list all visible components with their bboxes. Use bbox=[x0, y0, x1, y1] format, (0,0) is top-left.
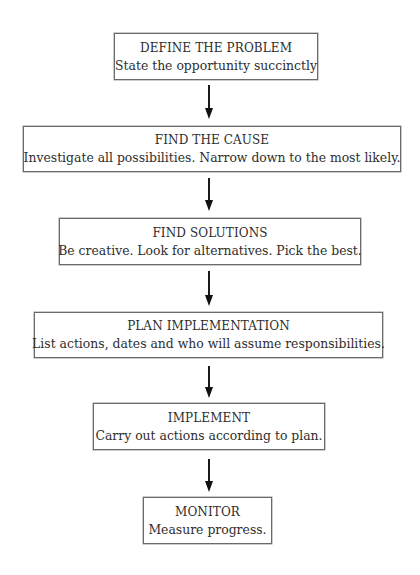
step-monitor: MONITOR Measure progress. bbox=[143, 497, 272, 544]
step-description: Be creative. Look for alternatives. Pick… bbox=[58, 242, 362, 260]
step-title: DEFINE THE PROBLEM bbox=[140, 39, 292, 57]
step-description: Carry out actions according to plan. bbox=[96, 427, 323, 445]
step-description: Investigate all possibilities. Narrow do… bbox=[24, 149, 401, 167]
step-find-the-cause: FIND THE CAUSE Investigate all possibili… bbox=[23, 126, 401, 172]
step-description: State the opportunity succinctly bbox=[115, 57, 317, 75]
step-title: IMPLEMENT bbox=[168, 409, 250, 427]
arrow-down-icon bbox=[204, 271, 214, 306]
step-description: List actions, dates and who will assume … bbox=[32, 335, 385, 353]
step-plan-implementation: PLAN IMPLEMENTATION List actions, dates … bbox=[34, 312, 383, 358]
arrow-down-icon bbox=[204, 85, 214, 119]
arrow-down-icon bbox=[204, 366, 214, 398]
step-title: MONITOR bbox=[175, 503, 240, 521]
step-define-the-problem: DEFINE THE PROBLEM State the opportunity… bbox=[114, 33, 318, 80]
step-title: FIND THE CAUSE bbox=[155, 131, 269, 149]
arrow-down-icon bbox=[204, 178, 214, 211]
step-description: Measure progress. bbox=[148, 521, 266, 539]
step-implement: IMPLEMENT Carry out actions according to… bbox=[93, 403, 325, 450]
step-title: PLAN IMPLEMENTATION bbox=[127, 317, 290, 335]
arrow-down-icon bbox=[204, 459, 214, 492]
step-find-solutions: FIND SOLUTIONS Be creative. Look for alt… bbox=[59, 218, 361, 265]
step-title: FIND SOLUTIONS bbox=[152, 224, 267, 242]
